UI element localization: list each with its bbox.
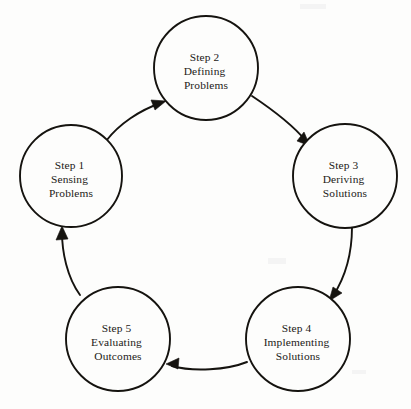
connector-path-2-3 <box>252 96 306 141</box>
node-step-5[interactable]: Step 5 Evaluating Outcomes <box>66 287 170 391</box>
connector-path-3-4 <box>333 227 352 296</box>
node-step-1[interactable]: Step 1 Sensing Problems <box>20 125 122 227</box>
arrowhead-4-5 <box>166 358 179 369</box>
connector-path-4-5 <box>172 362 247 369</box>
connector-step4-to-step5 <box>166 358 247 369</box>
connector-step2-to-step3 <box>252 96 310 146</box>
arrowhead-1-2 <box>151 100 166 110</box>
connector-step1-to-step2 <box>106 100 166 141</box>
arrowhead-5-1 <box>56 226 68 240</box>
node-label-step-1: Step 1 Sensing Problems <box>49 159 94 199</box>
node-label-step-3: Step 3 Deriving Solutions <box>323 159 368 199</box>
cycle-diagram: Step 1 Sensing Problems Step 2 Defining … <box>0 0 411 409</box>
node-step-2[interactable]: Step 2 Defining Problems <box>154 16 258 120</box>
cycle-diagram-canvas: Step 1 Sensing Problems Step 2 Defining … <box>0 0 411 409</box>
node-step-3[interactable]: Step 3 Deriving Solutions <box>293 124 397 228</box>
node-step-4[interactable]: Step 4 Implementing Solutions <box>246 287 350 391</box>
connector-path-5-1 <box>62 232 80 295</box>
connector-step3-to-step4 <box>329 227 352 301</box>
connector-step5-to-step1 <box>56 226 80 295</box>
connector-path-1-2 <box>106 103 161 141</box>
node-label-step-2: Step 2 Defining Problems <box>184 51 229 91</box>
